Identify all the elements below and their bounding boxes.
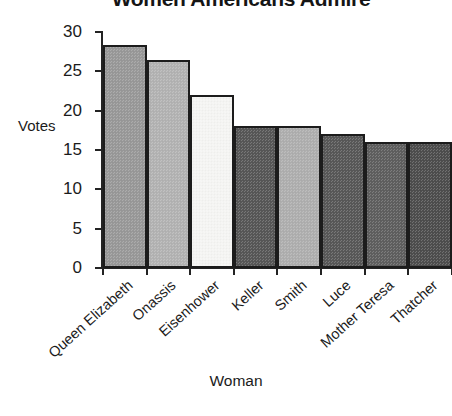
bar-chart: Women Americans Admire Votes 30252015105… [0, 0, 452, 416]
x-tick-mark [102, 269, 104, 275]
bar [321, 134, 365, 268]
x-tick-mark [146, 269, 148, 275]
x-tick-mark [276, 269, 278, 275]
bar [365, 142, 409, 268]
bar [103, 45, 147, 268]
x-tick-mark [364, 269, 366, 275]
x-tick-mark [320, 269, 322, 275]
y-tick-label: 20 [0, 101, 95, 121]
y-tick-mark [95, 110, 102, 112]
y-tick-mark [95, 267, 102, 269]
bar [277, 126, 321, 268]
x-axis-title: Woman [0, 372, 452, 390]
bar [234, 126, 278, 268]
bar [408, 142, 452, 268]
y-tick-mark [95, 188, 102, 190]
y-tick-label: 15 [0, 140, 95, 160]
y-tick-label: 0 [0, 258, 95, 278]
x-tick-mark [233, 269, 235, 275]
x-tick-mark [189, 269, 191, 275]
plot-area [103, 32, 452, 268]
chart-title: Women Americans Admire [0, 0, 452, 11]
y-tick-mark [95, 70, 102, 72]
y-tick-label: 30 [0, 22, 95, 42]
y-tick-label: 25 [0, 61, 95, 81]
y-tick-label: 10 [0, 179, 95, 199]
bar [190, 95, 234, 268]
y-tick-mark [95, 31, 102, 33]
x-category-label: Queen Elizabeth [0, 277, 136, 416]
y-tick-mark [95, 228, 102, 230]
y-tick-mark [95, 149, 102, 151]
bar [147, 60, 191, 268]
x-tick-mark [407, 269, 409, 275]
y-tick-label: 5 [0, 219, 95, 239]
